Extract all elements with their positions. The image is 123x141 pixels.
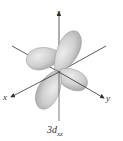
y-axis-label: y [105,93,110,103]
orbital-label: 3dxz [46,124,63,138]
orbital-diagram: z x y 3dxz [0,0,123,141]
z-axis-label: z [56,8,61,17]
x-axis-label: x [2,92,7,102]
orbital-label-subscript: xz [56,130,63,138]
